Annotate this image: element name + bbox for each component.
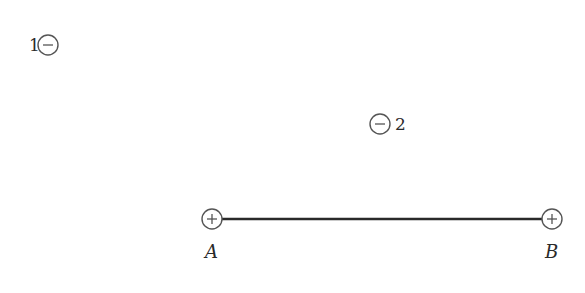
charge-1-negative-icon (38, 35, 58, 55)
charge-2-label: 2 (395, 116, 406, 133)
diagram-canvas (0, 0, 585, 293)
endpoint-a-label: A (205, 243, 218, 261)
endpoint-b-positive-icon (542, 209, 562, 229)
charge-1-label: 1 (29, 37, 40, 54)
charge-2-negative-icon (370, 114, 390, 134)
endpoint-b-label: B (545, 243, 558, 261)
endpoint-a-positive-icon (202, 209, 222, 229)
